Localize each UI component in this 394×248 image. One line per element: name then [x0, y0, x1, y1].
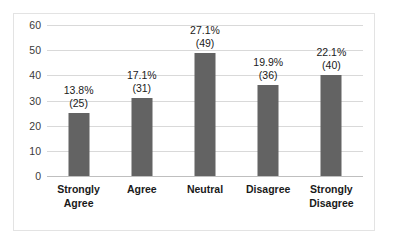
plot-area: 0102030405060 13.8%(25)17.1%(31)27.1%(49… [47, 25, 363, 176]
bar-value-label: 13.8%(25) [64, 84, 94, 110]
bar-value-label: 22.1%(40) [317, 46, 347, 72]
bar-count-text: (40) [317, 59, 347, 72]
bars-layer: 13.8%(25)17.1%(31)27.1%(49)19.9%(36)22.1… [47, 25, 363, 176]
y-axis-tick-label: 10 [29, 146, 41, 157]
y-axis-tick-label: 40 [29, 70, 41, 81]
bar-group[interactable]: 22.1%(40) [300, 25, 363, 176]
bar-count-text: (31) [127, 82, 157, 95]
bar-value-label: 27.1%(49) [190, 24, 220, 50]
bar-percent-text: 27.1% [190, 24, 220, 37]
gridline-0 [47, 176, 363, 177]
bar-group[interactable]: 17.1%(31) [110, 25, 173, 176]
bar[interactable] [68, 113, 89, 176]
bar[interactable] [131, 98, 152, 176]
x-axis-category-label: Strongly Disagree [309, 182, 353, 210]
bar-percent-text: 13.8% [64, 84, 94, 97]
bar[interactable] [321, 75, 342, 176]
y-axis-tick-label: 30 [29, 95, 41, 106]
x-axis-category-label: Strongly Agree [57, 182, 100, 210]
bar-group[interactable]: 13.8%(25) [47, 25, 110, 176]
x-axis-labels: Strongly AgreeAgreeNeutralDisagreeStrong… [47, 182, 363, 226]
bar-percent-text: 19.9% [253, 56, 283, 69]
chart-frame: 0102030405060 13.8%(25)17.1%(31)27.1%(49… [13, 13, 375, 231]
bar-percent-text: 22.1% [317, 46, 347, 59]
bar-count-text: (49) [190, 37, 220, 50]
bar-percent-text: 17.1% [127, 69, 157, 82]
bar-group[interactable]: 27.1%(49) [173, 25, 236, 176]
bar-value-label: 17.1%(31) [127, 69, 157, 95]
y-axis-tick-label: 50 [29, 45, 41, 56]
bar-count-text: (25) [64, 97, 94, 110]
bar-group[interactable]: 19.9%(36) [237, 25, 300, 176]
y-axis-tick-label: 0 [35, 171, 41, 182]
bar[interactable] [194, 53, 215, 176]
bar-value-label: 19.9%(36) [253, 56, 283, 82]
x-axis-category-label: Agree [127, 182, 157, 196]
x-axis-category-label: Neutral [187, 182, 223, 196]
y-axis-tick-label: 20 [29, 120, 41, 131]
x-axis-category-label: Disagree [246, 182, 290, 196]
bar[interactable] [258, 85, 279, 176]
y-axis-tick-label: 60 [29, 20, 41, 31]
bar-count-text: (36) [253, 69, 283, 82]
